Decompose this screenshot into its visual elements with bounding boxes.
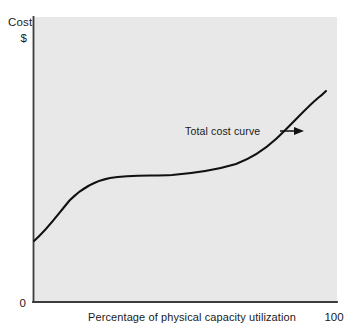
y-axis-origin-tick-label: 0 [20,297,26,309]
total-cost-curve-chart: Cost $ 0 Percentage of physical capacity… [0,0,355,334]
curve-annotation-label: Total cost curve [185,125,260,137]
x-axis-max-tick-label: 100 [324,311,343,323]
y-axis-units-label: $ [20,32,27,44]
chart-figure: Cost $ 0 Percentage of physical capacity… [0,0,355,334]
x-axis-title: Percentage of physical capacity utilizat… [88,311,296,323]
plot-area-background [34,17,337,302]
y-axis-label: Cost [8,16,33,28]
